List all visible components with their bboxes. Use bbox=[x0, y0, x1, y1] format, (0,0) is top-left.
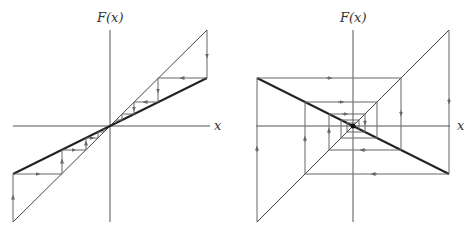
y-axis-label: F(x) bbox=[339, 10, 367, 25]
cobweb-diagrams: F(x) x bbox=[0, 0, 473, 237]
left-panel: F(x) x bbox=[13, 10, 222, 222]
y-axis-label: F(x) bbox=[96, 10, 124, 25]
x-axis-label: x bbox=[457, 118, 465, 133]
right-panel: F(x) x bbox=[256, 10, 465, 222]
x-axis-label: x bbox=[214, 118, 222, 133]
fixed-point bbox=[351, 124, 356, 129]
